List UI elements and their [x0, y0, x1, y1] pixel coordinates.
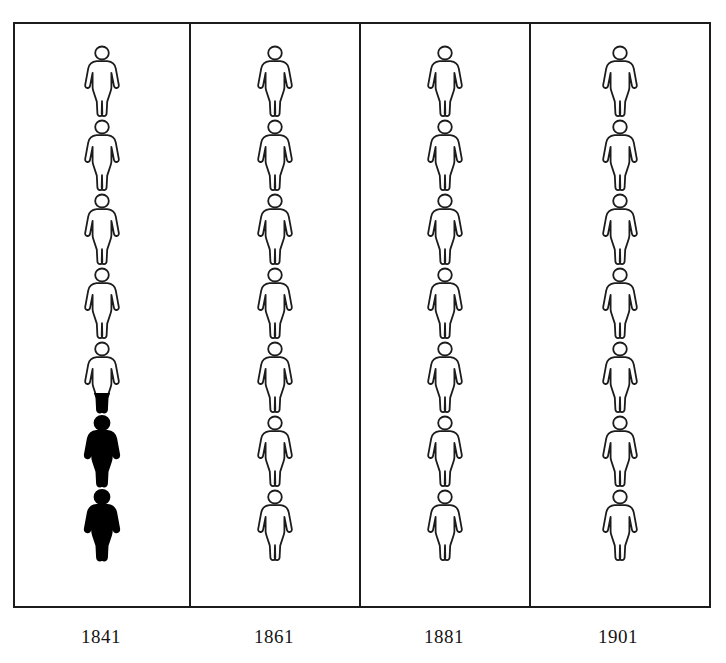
person-icon [78, 192, 126, 266]
person-icon [596, 266, 644, 340]
person-icon [596, 118, 644, 192]
person-icon [596, 488, 644, 562]
pictogram-chart: 1841 1861 1881 1901 [0, 0, 726, 663]
x-axis-label-1881: 1881 [359, 612, 529, 656]
chart-column-1861 [191, 24, 361, 606]
figure-stack [596, 44, 644, 562]
person-icon [251, 340, 299, 414]
chart-column-1841 [15, 24, 191, 606]
person-icon [251, 488, 299, 562]
person-icon [421, 488, 469, 562]
person-icon [596, 44, 644, 118]
x-axis-label-1861: 1861 [189, 612, 359, 656]
person-icon [251, 44, 299, 118]
person-icon [596, 340, 644, 414]
figure-stack [421, 44, 469, 562]
person-icon [596, 192, 644, 266]
person-icon [596, 414, 644, 488]
person-icon [251, 414, 299, 488]
person-icon-filled [78, 414, 126, 488]
figure-stack [251, 44, 299, 562]
chart-column-1901 [531, 24, 709, 606]
person-icon [421, 266, 469, 340]
person-icon [421, 192, 469, 266]
person-icon [421, 414, 469, 488]
x-axis-label-row: 1841 1861 1881 1901 [13, 612, 711, 656]
person-icon [421, 44, 469, 118]
person-icon [251, 266, 299, 340]
person-icon [421, 118, 469, 192]
person-icon [78, 266, 126, 340]
person-icon-partial [78, 340, 126, 414]
person-icon-filled [78, 488, 126, 562]
x-axis-label-1901: 1901 [529, 612, 707, 656]
figure-stack [78, 44, 126, 562]
person-icon [251, 118, 299, 192]
person-icon [251, 192, 299, 266]
person-icon [78, 44, 126, 118]
person-icon [78, 118, 126, 192]
chart-column-1881 [361, 24, 531, 606]
person-icon [421, 340, 469, 414]
x-axis-label-1841: 1841 [13, 612, 189, 656]
chart-plot-frame [13, 22, 711, 608]
